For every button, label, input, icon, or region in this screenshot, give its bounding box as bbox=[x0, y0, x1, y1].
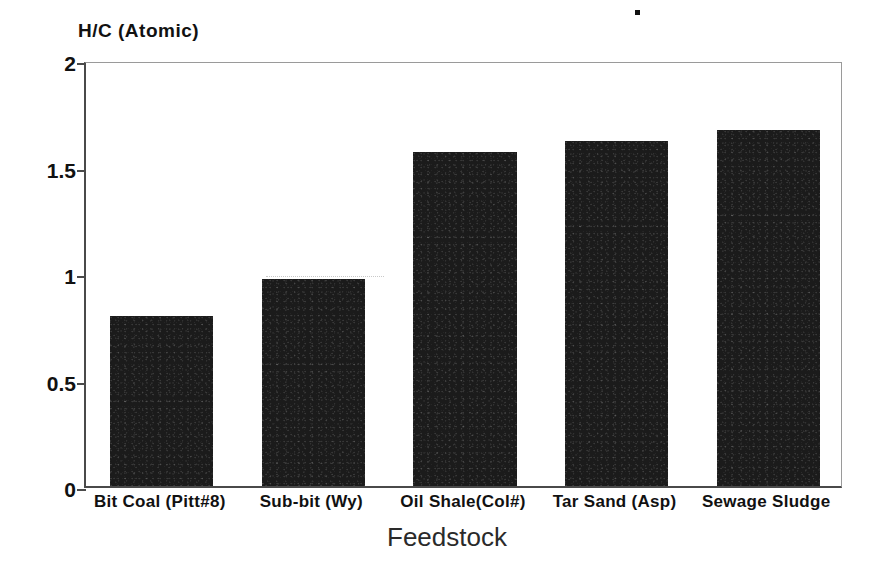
y-tick-label: 2 bbox=[64, 53, 76, 74]
y-tick-mark bbox=[77, 170, 86, 172]
bar-4 bbox=[717, 130, 820, 486]
y-tick-label: 0.5 bbox=[47, 372, 76, 393]
x-tick-label-2: Oil Shale(Col#) bbox=[400, 492, 525, 512]
y-tick-mark bbox=[77, 383, 86, 385]
x-tick-label-3: Tar Sand (Asp) bbox=[553, 492, 677, 512]
bar-0 bbox=[110, 316, 213, 486]
x-tick-label-1: Sub-bit (Wy) bbox=[260, 492, 363, 512]
faint-gridline bbox=[266, 276, 384, 277]
bar-chart-figure: H/C (Atomic) 00.511.52 Bit Coal (Pitt#8)… bbox=[0, 0, 894, 572]
y-tick-label: 1.5 bbox=[47, 159, 76, 180]
y-axis-title: H/C (Atomic) bbox=[78, 20, 199, 42]
y-tick-mark bbox=[77, 489, 86, 491]
y-tick-label: 0 bbox=[64, 479, 76, 500]
x-tick-label-0: Bit Coal (Pitt#8) bbox=[94, 492, 226, 512]
x-tick-label-4: Sewage Sludge bbox=[702, 492, 831, 512]
y-tick-mark bbox=[77, 276, 86, 278]
y-tick-label: 1 bbox=[64, 266, 76, 287]
x-axis-title: Feedstock bbox=[0, 522, 894, 553]
bar-3 bbox=[565, 141, 668, 486]
bar-2 bbox=[413, 152, 516, 486]
y-tick-mark bbox=[77, 63, 86, 65]
bar-1 bbox=[262, 279, 365, 486]
plot-area: 00.511.52 bbox=[84, 62, 842, 488]
x-axis-tick-labels: Bit Coal (Pitt#8)Sub-bit (Wy)Oil Shale(C… bbox=[84, 492, 894, 518]
label-separator-dot-icon bbox=[635, 10, 640, 15]
